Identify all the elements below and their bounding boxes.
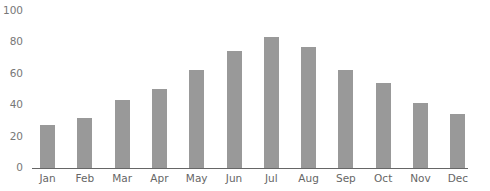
x-tick-label: Mar	[104, 172, 140, 184]
bar-aug	[301, 47, 316, 168]
x-tick-label: Dec	[440, 172, 476, 184]
bar-jul	[264, 37, 279, 168]
y-tick-label: 0	[0, 161, 23, 173]
bar-jun	[227, 51, 242, 168]
x-tick-label: Jun	[216, 172, 252, 184]
x-tick-label: Feb	[67, 172, 103, 184]
bar-sep	[338, 70, 353, 168]
x-tick-label: Sep	[328, 172, 364, 184]
bar-dec	[450, 114, 465, 168]
bar-jan	[40, 125, 55, 168]
x-axis-line	[32, 168, 468, 169]
bar-chart: 020406080100 JanFebMarAprMayJunJulAugSep…	[0, 0, 490, 191]
y-tick-label: 80	[0, 35, 23, 47]
bar-oct	[376, 83, 391, 168]
x-tick-label: Jan	[30, 172, 66, 184]
y-tick-label: 40	[0, 98, 23, 110]
bar-may	[189, 70, 204, 168]
bar-nov	[413, 103, 428, 168]
x-tick-label: Oct	[365, 172, 401, 184]
y-tick-label: 20	[0, 130, 23, 142]
bar-feb	[77, 118, 92, 168]
bar-mar	[115, 100, 130, 168]
bar-apr	[152, 89, 167, 168]
x-tick-label: Jul	[253, 172, 289, 184]
x-tick-label: Nov	[403, 172, 439, 184]
x-tick-label: Aug	[291, 172, 327, 184]
x-tick-label: Apr	[141, 172, 177, 184]
x-tick-label: May	[179, 172, 215, 184]
y-tick-label: 100	[0, 4, 23, 16]
y-tick-label: 60	[0, 67, 23, 79]
